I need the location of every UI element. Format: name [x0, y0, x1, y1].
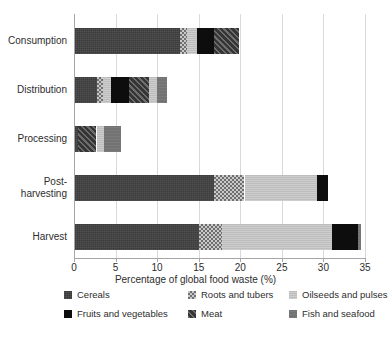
x-tick-label-0: 0 [59, 262, 89, 273]
chart-legend: Cereals Roots and tubers Oilseeds and pu… [60, 288, 391, 332]
legend-label-cereals: Cereals [77, 289, 110, 300]
legend-swatch-fruits-and-vegetables-icon [64, 310, 72, 318]
segment-distribution-oilseeds-and-pulses [103, 77, 111, 103]
legend-swatch-cereals-icon [64, 291, 72, 299]
x-tick-label-15: 15 [184, 262, 214, 273]
legend-label-fruits-and-vegetables: Fruits and vegetables [77, 308, 168, 319]
segment-processing-oilseeds-and-pulses [97, 126, 105, 152]
x-tick-label-25: 25 [267, 262, 297, 273]
legend-item-meat[interactable]: Meat [188, 308, 222, 319]
legend-label-roots-and-tubers: Roots and tubers [201, 289, 273, 300]
segment-distribution-fish-and-seafood [157, 77, 167, 103]
legend-item-roots-and-tubers[interactable]: Roots and tubers [188, 289, 273, 300]
gridline-20 [240, 14, 241, 258]
gridline-25 [282, 14, 283, 258]
legend-swatch-meat-icon [188, 310, 196, 318]
y-label-harvest: Harvest [33, 231, 67, 243]
segment-consumption-meat [214, 28, 239, 54]
bar-harvest [74, 224, 361, 250]
x-tick-label-10: 10 [142, 262, 172, 273]
y-label-consumption: Consumption [8, 35, 67, 47]
legend-label-oilseeds-and-pulses: Oilseeds and pulses [302, 289, 388, 300]
y-label-processing: Processing [18, 133, 67, 145]
y-label-post-harvesting: Post- harvesting [21, 176, 67, 199]
bar-processing [74, 126, 121, 152]
gridline-35 [365, 14, 366, 258]
segment-post-harvesting-oilseeds-and-pulses [245, 175, 317, 201]
y-axis-line [74, 14, 75, 259]
plot-area [74, 14, 365, 258]
segment-distribution-cereals [74, 77, 97, 103]
segment-post-harvesting-cereals [74, 175, 214, 201]
bar-consumption [74, 28, 239, 54]
legend-swatch-oilseeds-and-pulses-icon [289, 291, 297, 299]
segment-distribution-oilseeds-and-pulses-2 [149, 77, 157, 103]
segment-post-harvesting-roots-and-tubers [214, 175, 245, 201]
x-tick-label-30: 30 [308, 262, 338, 273]
y-label-distribution: Distribution [17, 84, 67, 96]
legend-swatch-fish-and-seafood-icon [289, 310, 297, 318]
legend-item-oilseeds-and-pulses[interactable]: Oilseeds and pulses [289, 289, 388, 300]
segment-harvest-cereals [74, 224, 199, 250]
segment-distribution-meat [129, 77, 149, 103]
legend-item-fruits-and-vegetables[interactable]: Fruits and vegetables [64, 308, 168, 319]
segment-processing-fish-and-seafood [104, 126, 121, 152]
x-tick-label-35: 35 [350, 262, 380, 273]
x-axis-title: Percentage of global food waste (%) [0, 274, 391, 285]
segment-consumption-cereals [74, 28, 180, 54]
segment-consumption-oilseeds-and-pulses [187, 28, 197, 54]
legend-item-cereals[interactable]: Cereals [64, 289, 110, 300]
x-tick-label-20: 20 [225, 262, 255, 273]
segment-harvest-roots-and-tubers [199, 224, 222, 250]
gridline-30 [323, 14, 324, 258]
segment-post-harvesting-fruits-and-vegetables [317, 175, 328, 201]
x-axis-line [74, 258, 366, 259]
x-tick-label-5: 5 [101, 262, 131, 273]
stacked-bar-chart: Consumption Distribution Processing Post… [0, 0, 391, 338]
segment-consumption-fruits-and-vegetables [197, 28, 214, 54]
segment-harvest-oilseeds-and-pulses [222, 224, 332, 250]
bar-post-harvesting [74, 175, 328, 201]
bar-distribution [74, 77, 167, 103]
segment-processing-meat [78, 126, 96, 152]
legend-label-meat: Meat [201, 308, 222, 319]
segment-harvest-fruits-and-vegetables [332, 224, 359, 250]
legend-item-fish-and-seafood[interactable]: Fish and seafood [289, 308, 375, 319]
segment-consumption-roots-and-tubers [180, 28, 187, 54]
legend-swatch-roots-and-tubers-icon [188, 291, 196, 299]
segment-distribution-fruits-and-vegetables [111, 77, 129, 103]
legend-label-fish-and-seafood: Fish and seafood [302, 308, 375, 319]
segment-harvest-fish-and-seafood [358, 224, 361, 250]
